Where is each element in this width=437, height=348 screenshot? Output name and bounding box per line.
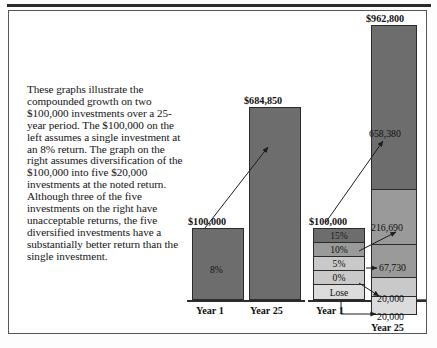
right-year25-value-label: $962,800 [366, 13, 404, 24]
right-axis-label-year1: Year 1 [316, 305, 344, 316]
right-year25-segment-10 [371, 189, 417, 245]
left-axis-label-year25: Year 25 [250, 305, 283, 316]
right-year25-label-20000-b: 20,000 [377, 311, 404, 322]
right-axis-label-year25: Year 25 [371, 322, 404, 333]
right-year25-label-216690: 216,690 [371, 222, 403, 233]
right-year1-segment-10: 10% [313, 242, 365, 257]
right-year25-segment-15 [371, 25, 417, 190]
top-rule-divider [7, 4, 431, 7]
right-year1-value-label: $100,000 [309, 216, 347, 227]
right-year1-segment-0: 0% [313, 270, 365, 285]
right-year1-segment-5: 5% [313, 256, 365, 271]
left-year25-bar [249, 107, 301, 300]
left-year1-value-label: $100,000 [188, 216, 226, 227]
right-year1-segment-lose: Lose [313, 284, 365, 300]
right-year1-stack: 15% 10% 5% 0% Lose [313, 228, 365, 300]
left-year25-value-label: $684,850 [244, 95, 282, 106]
right-year1-segment-15: 15% [313, 228, 365, 243]
figure-canvas: These graphs illustrate the compounded g… [0, 0, 437, 348]
right-year25-label-20000-a: 20,000 [377, 293, 404, 304]
left-axis-label-year1: Year 1 [196, 305, 224, 316]
explanatory-paragraph: These graphs illustrate the compounded g… [27, 84, 187, 263]
left-year1-rate-label: 8% [210, 264, 223, 275]
right-year25-label-67730: 67,730 [379, 262, 406, 273]
explanatory-text: These graphs illustrate the compounded g… [27, 84, 187, 263]
left-chart-baseline [187, 300, 305, 302]
right-year25-label-658380: 658,380 [369, 128, 401, 139]
